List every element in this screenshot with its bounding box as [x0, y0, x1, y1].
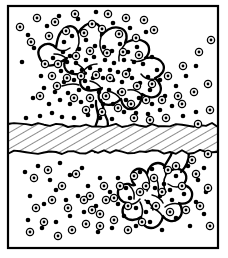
solid-dot	[94, 10, 99, 15]
solid-dot	[54, 220, 59, 225]
solid-dot	[98, 116, 103, 121]
ringed-dot	[188, 156, 195, 163]
ringed-dot-center	[133, 175, 136, 178]
solid-dot	[122, 214, 127, 219]
solid-dot	[174, 84, 179, 89]
ringed-dot-center	[113, 219, 116, 222]
solid-dot	[148, 88, 153, 93]
ringed-dot-center	[85, 223, 88, 226]
solid-dot	[150, 102, 155, 107]
solid-dot	[68, 173, 73, 178]
ringed-dot	[80, 196, 87, 203]
ringed-dot-center	[51, 199, 54, 202]
ringed-dot	[102, 196, 109, 203]
ringed-dot	[138, 218, 145, 225]
ringed-dot-center	[149, 119, 152, 122]
ringed-dot	[194, 120, 201, 127]
ringed-dot	[72, 170, 79, 177]
ringed-dot	[62, 27, 69, 34]
ringed-dot-center	[89, 97, 92, 100]
solid-dot	[98, 176, 103, 181]
solid-dot	[50, 111, 55, 116]
ringed-dot-center	[61, 185, 64, 188]
ringed-dot	[88, 206, 95, 213]
ringed-dot	[32, 204, 39, 211]
ringed-dot-center	[83, 32, 86, 35]
solid-dot	[158, 108, 163, 113]
solid-dot	[97, 90, 102, 95]
ringed-dot	[63, 74, 70, 81]
solid-dot	[80, 68, 85, 73]
solid-dot	[32, 46, 37, 51]
ringed-dot-center	[33, 177, 36, 180]
ringed-dot-center	[119, 185, 122, 188]
ringed-dot-center	[155, 205, 158, 208]
solid-dot	[60, 115, 65, 120]
solid-dot	[174, 174, 179, 179]
solid-dot	[66, 91, 71, 96]
solid-dot	[101, 102, 106, 107]
solid-dot	[62, 40, 67, 45]
solid-dot	[77, 88, 82, 93]
ringed-dot	[207, 36, 214, 43]
solid-dot	[134, 224, 139, 229]
ringed-dot-center	[125, 17, 128, 20]
ringed-dot-center	[151, 83, 154, 86]
ringed-dot-center	[57, 63, 60, 66]
ringed-dot	[88, 20, 95, 27]
ringed-dot-center	[167, 75, 170, 78]
ringed-dot	[16, 23, 23, 30]
ringed-dot-center	[105, 95, 108, 98]
solid-dot	[39, 74, 44, 79]
ringed-dot	[92, 71, 99, 78]
ringed-dot-center	[169, 211, 172, 214]
solid-dot	[86, 86, 91, 91]
ringed-dot	[196, 202, 203, 209]
solid-dot	[107, 88, 112, 93]
ringed-dot-center	[185, 209, 188, 212]
ringed-dot	[118, 88, 125, 95]
ringed-dot	[152, 202, 159, 209]
membrane-hatching	[8, 123, 218, 154]
solid-dot	[28, 194, 33, 199]
ringed-dot-center	[165, 117, 168, 120]
ringed-dot	[72, 52, 79, 59]
solid-dot	[184, 74, 189, 79]
ringed-dot	[133, 82, 140, 89]
ringed-dot	[54, 60, 61, 67]
ringed-dot	[106, 74, 113, 81]
solid-dot	[146, 75, 151, 80]
ringed-dot	[80, 29, 87, 36]
ringed-dot-center	[207, 153, 210, 156]
ringed-dot	[54, 232, 61, 239]
solid-dot	[112, 61, 117, 66]
ringed-dot	[48, 72, 55, 79]
solid-dot	[77, 47, 82, 52]
ringed-dot	[71, 10, 78, 17]
ringed-dot	[130, 172, 137, 179]
solid-dot	[108, 190, 113, 195]
solid-dot	[68, 102, 73, 107]
ringed-dot	[68, 226, 75, 233]
ringed-dot-center	[71, 229, 74, 232]
ringed-dot-center	[199, 205, 202, 208]
ringed-dot-center	[181, 103, 184, 106]
ringed-dot-center	[56, 85, 59, 88]
ringed-dot	[146, 116, 153, 123]
ringed-dot	[102, 92, 109, 99]
solid-dot	[42, 86, 47, 91]
ringed-dot	[98, 25, 105, 32]
ringed-dot	[103, 49, 110, 56]
solid-dot	[58, 161, 63, 166]
ringed-dot	[127, 100, 134, 107]
solid-dot	[118, 42, 123, 47]
ringed-dot	[114, 104, 121, 111]
ringed-dot	[206, 106, 213, 113]
solid-dot	[162, 182, 167, 187]
solid-dot	[72, 116, 77, 121]
solid-dot	[84, 58, 89, 63]
solid-dot	[128, 26, 133, 31]
solid-dot	[116, 202, 121, 207]
ringed-dot-center	[197, 123, 200, 126]
ringed-dot-center	[109, 77, 112, 80]
